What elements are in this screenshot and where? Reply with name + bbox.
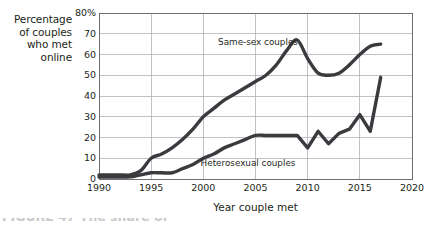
x-tick-label: 2020 bbox=[400, 183, 424, 193]
x-tick-label: 1990 bbox=[87, 183, 111, 193]
x-axis-tick-labels: 1990199520002005201020152020 bbox=[0, 0, 431, 225]
x-axis-title: Year couple met bbox=[99, 201, 412, 213]
series-label-heterosexual: Heterosexual couples bbox=[198, 158, 298, 168]
x-tick-label: 2015 bbox=[348, 183, 372, 193]
series-label-line: Same-sex couples bbox=[218, 37, 298, 47]
figure-caption-cropped: FIGURE 47 The share of bbox=[0, 218, 431, 225]
series-label-same-sex: Same-sex couples bbox=[218, 37, 298, 47]
chart-figure: Percentage of couples who met online 010… bbox=[0, 0, 431, 225]
x-tick-label: 2010 bbox=[296, 183, 320, 193]
figure-caption-text: FIGURE 47 The share of bbox=[2, 218, 168, 224]
x-tick-label: 2000 bbox=[191, 183, 215, 193]
series-label-line: Heterosexual couples bbox=[201, 158, 296, 168]
x-tick-label: 1995 bbox=[139, 183, 163, 193]
x-tick-label: 2005 bbox=[243, 183, 267, 193]
